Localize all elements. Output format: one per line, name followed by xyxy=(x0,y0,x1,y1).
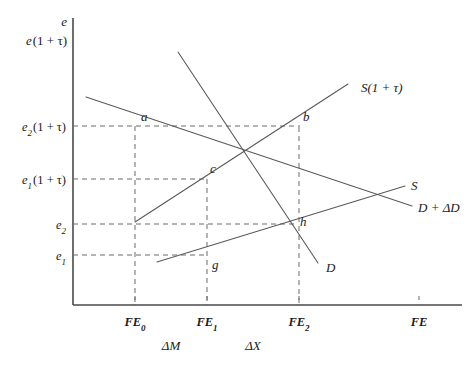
interval-label-deltaX: ΔX xyxy=(244,338,262,353)
axes-group xyxy=(73,18,462,305)
point-label-b: b xyxy=(303,109,310,124)
axis-labels-group: ee(1 + τ)e2(1 + τ)e1(1 + τ)e2e1FE0FE1FE2… xyxy=(22,14,427,333)
interval-label-deltaM: ΔM xyxy=(161,338,182,353)
point-labels-group: abchg xyxy=(141,109,310,272)
guide-lines-group xyxy=(73,126,300,305)
curve-S_plus_tau xyxy=(135,84,348,222)
curve-label-D_plus_dD: D + ΔD xyxy=(417,200,460,215)
curve-labels-group: D + ΔDDS(1 + τ)S xyxy=(325,80,460,275)
curve-label-D: D xyxy=(325,260,336,275)
point-label-g: g xyxy=(212,257,219,272)
curve-label-S_plus_tau: S(1 + τ) xyxy=(361,80,403,95)
curve-D xyxy=(178,52,318,263)
x-tick-label-FE: FE xyxy=(410,315,428,329)
y-tick-label-e2tau: e2(1 + τ) xyxy=(22,120,66,138)
axis-ticks-group xyxy=(135,296,419,305)
y-tick-label-e1tau: e1(1 + τ) xyxy=(22,173,66,191)
x-tick-label-FE2: FE2 xyxy=(287,315,310,333)
point-label-a: a xyxy=(141,109,148,124)
y-tick-label-e2: e2 xyxy=(56,218,67,236)
y-axis-label: e xyxy=(61,14,67,29)
interval-labels-group: ΔMΔX xyxy=(161,338,262,353)
y-tick-label-e1: e1 xyxy=(56,249,66,267)
x-tick-label-FE1: FE1 xyxy=(195,315,217,333)
economics-diagram: ee(1 + τ)e2(1 + τ)e1(1 + τ)e2e1FE0FE1FE2… xyxy=(0,0,476,367)
point-label-h: h xyxy=(300,214,307,229)
point-label-c: c xyxy=(210,161,216,176)
y-axis-label-secondary: e(1 + τ) xyxy=(26,33,67,48)
x-tick-label-FE0: FE0 xyxy=(123,315,146,333)
curve-label-S: S xyxy=(411,178,418,193)
